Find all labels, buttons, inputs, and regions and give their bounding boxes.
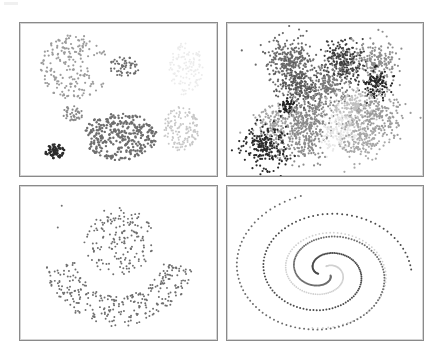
scatter-plot-4 bbox=[227, 186, 423, 340]
scatter-panel-blobs bbox=[19, 22, 218, 177]
corner-mark bbox=[4, 2, 18, 5]
scatter-panel-spirals bbox=[226, 185, 424, 341]
scatter-plot-1 bbox=[20, 23, 217, 176]
scatter-panel-many-blobs bbox=[226, 22, 424, 177]
scatter-plot-2 bbox=[227, 23, 423, 176]
scatter-plot-3 bbox=[20, 186, 217, 340]
scatter-panel-smiley bbox=[19, 185, 218, 341]
